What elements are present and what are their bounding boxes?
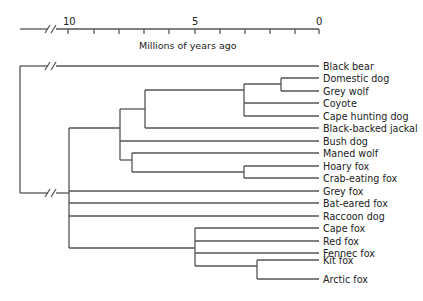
leaf-coyote: Coyote [323, 98, 357, 109]
leaf-bat-eared-fox: Bat-eared fox [323, 198, 388, 209]
tick-label-10: 10 [63, 16, 76, 27]
leaf-maned-wolf: Maned wolf [323, 148, 379, 159]
leaf-kit-fox: Kit fox [323, 255, 354, 266]
leaf-domestic-dog: Domestic dog [323, 73, 389, 84]
tick-label-0: 0 [316, 16, 322, 27]
leaf-bush-dog: Bush dog [323, 136, 368, 147]
leaf-black-backed-jackal: Black-backed jackal [323, 123, 418, 134]
leaf-arctic-fox: Arctic fox [323, 274, 368, 285]
tick-label-5: 5 [192, 16, 198, 27]
leaf-grey-fox: Grey fox [323, 186, 364, 197]
leaf-crab-eating-fox: Crab-eating fox [323, 173, 397, 184]
leaf-cape-fox: Cape fox [323, 223, 366, 234]
tree-branches [20, 62, 319, 279]
leaf-red-fox: Red fox [323, 236, 359, 247]
axis-title: Millions of years ago [139, 40, 237, 51]
leaf-cape-hunting-dog: Cape hunting dog [323, 111, 409, 122]
axis-ticks [68, 29, 319, 34]
time-axis: 10 5 0 Millions of years ago [20, 16, 322, 51]
leaf-black-bear: Black bear [323, 61, 374, 72]
leaf-labels: Black bear Domestic dog Grey wolf Coyote… [323, 61, 418, 285]
leaf-hoary-fox: Hoary fox [323, 161, 370, 172]
leaf-raccoon-dog: Raccoon dog [323, 211, 385, 222]
leaf-grey-wolf: Grey wolf [323, 86, 369, 97]
phylogenetic-tree: 10 5 0 Millions of years ago [0, 0, 423, 301]
